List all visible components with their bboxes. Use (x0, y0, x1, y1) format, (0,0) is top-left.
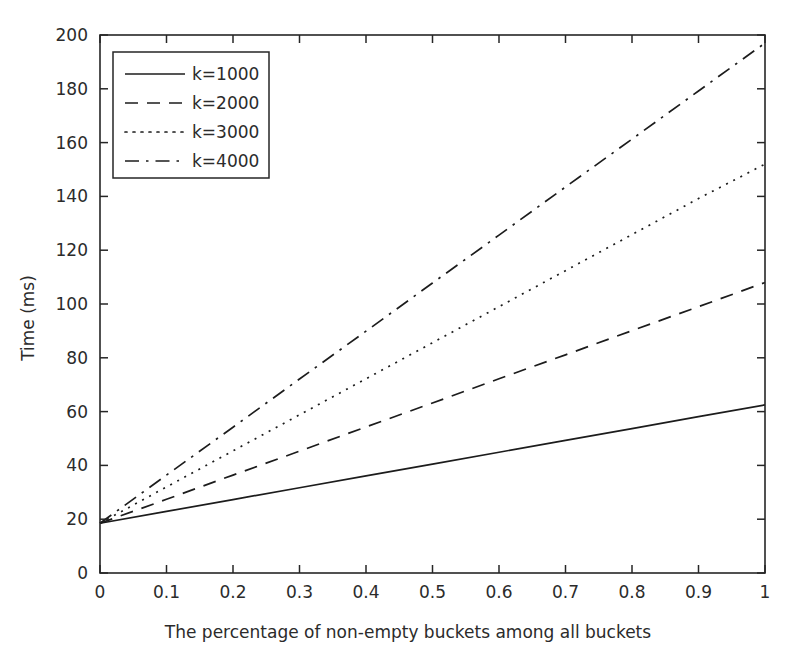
y-tick-label: 140 (56, 186, 88, 206)
x-tick-label: 0.4 (352, 582, 379, 602)
y-tick-label: 120 (56, 240, 88, 260)
x-tick-label: 0.5 (419, 582, 446, 602)
x-tick-label: 0.6 (485, 582, 512, 602)
x-tick-label: 0.8 (618, 582, 645, 602)
x-tick-label: 0.3 (286, 582, 313, 602)
x-tick-label: 0.9 (685, 582, 712, 602)
chart-legend: k=1000k=2000k=3000k=4000 (113, 52, 269, 178)
y-tick-label: 80 (66, 348, 88, 368)
x-tick-label: 0.1 (153, 582, 180, 602)
y-tick-label: 60 (66, 402, 88, 422)
series-line-k-1000 (100, 405, 765, 523)
y-tick-label: 40 (66, 455, 88, 475)
x-axis-title: The percentage of non-empty buckets amon… (164, 622, 651, 642)
y-tick-label: 0 (77, 563, 88, 583)
x-tick-label: 0.7 (552, 582, 579, 602)
x-tick-label: 0.2 (219, 582, 246, 602)
series-line-k-2000 (100, 282, 765, 523)
y-tick-label: 160 (56, 133, 88, 153)
legend-label-k-2000: k=2000 (192, 93, 259, 113)
y-tick-label: 180 (56, 79, 88, 99)
y-axis-title: Time (ms) (18, 275, 38, 362)
y-tick-label: 100 (56, 294, 88, 314)
legend-label-k-1000: k=1000 (192, 64, 259, 84)
line-chart: 00.10.20.30.40.50.60.70.80.91 0204060801… (0, 0, 797, 661)
legend-label-k-4000: k=4000 (192, 151, 259, 171)
legend-label-k-3000: k=3000 (192, 122, 259, 142)
y-tick-label: 200 (56, 25, 88, 45)
series-line-k-3000 (100, 164, 765, 523)
x-tick-label: 0 (95, 582, 106, 602)
y-tick-label: 20 (66, 509, 88, 529)
figure-canvas: 00.10.20.30.40.50.60.70.80.91 0204060801… (0, 0, 797, 661)
x-tick-label: 1 (760, 582, 771, 602)
